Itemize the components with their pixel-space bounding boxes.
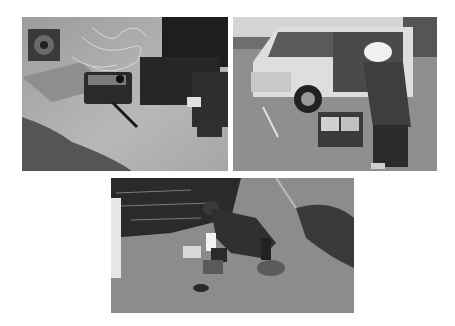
manhole [193,284,209,292]
wet-spot [257,260,285,276]
equipment-cart [318,112,363,147]
waterside-scene [111,178,354,313]
cable-reel [28,29,60,61]
van-scene [233,17,437,171]
photo-generator-equipment: Portable generator, cable reels and equi… [22,17,228,171]
person-edge [111,198,121,278]
photo-van-operator: Person in helmet operating equipment nex… [233,17,437,171]
generator-scene [22,17,228,171]
photo-waterside-setup: Person crouching at waterside setting up… [111,178,354,313]
